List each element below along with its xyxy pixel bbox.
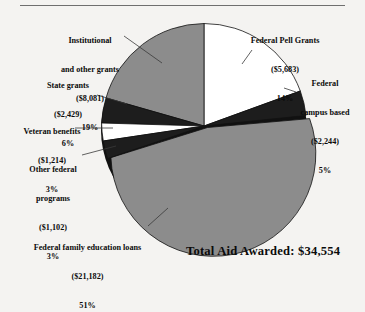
slice-label-percent: 51% bbox=[10, 301, 165, 311]
slice-label-federal-family-education-loans: Federal family education loans ($21,182)… bbox=[10, 224, 165, 312]
slice-label-amount: ($2,244) bbox=[287, 137, 363, 147]
slice-label-federal-campus-based: Federal campus based ($2,244) 5% bbox=[287, 60, 363, 194]
slice-label-line: Veteran benefits bbox=[3, 127, 101, 137]
slice-label-line: Institutional bbox=[34, 36, 146, 46]
slice-label-amount: ($21,182) bbox=[10, 272, 165, 282]
slice-label-line: Federal bbox=[287, 79, 363, 89]
slice-label-line: Federal Pell Grants bbox=[228, 36, 342, 46]
slice-label-line: Federal family education loans bbox=[10, 243, 165, 253]
slice-label-line: Other federal bbox=[3, 165, 103, 175]
slice-label-line: campus based bbox=[287, 108, 363, 118]
slice-label-line: State grants bbox=[20, 81, 116, 91]
slice-label-line: programs bbox=[3, 194, 103, 204]
total-aid-awarded-text: Total Aid Awarded: $34,554 bbox=[186, 244, 362, 259]
slice-label-percent: 5% bbox=[287, 166, 363, 176]
